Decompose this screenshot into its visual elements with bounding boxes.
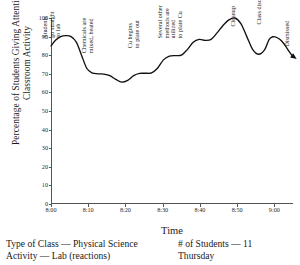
curve-annotation: Cleanup <box>231 6 238 27</box>
x-tick-label: 8:40 <box>194 207 205 213</box>
caption-left-column: Type of Class — Physical Science Activit… <box>6 238 178 262</box>
curve-annotation: Chemicals are mixed, heated <box>81 18 94 53</box>
curve-annotation: Class discussion <box>257 0 264 25</box>
caption-day: Thursday <box>178 250 294 262</box>
y-tick-label: 70 <box>42 71 48 77</box>
plot-area: 0102030405060708090100 8:008:108:208:308… <box>51 18 293 204</box>
x-tick-label: 8:10 <box>83 207 94 213</box>
x-tick-label: 8:00 <box>45 207 56 213</box>
x-tick-label: 8:30 <box>157 207 168 213</box>
y-tick-label: 60 <box>42 89 48 95</box>
y-tick-label: 40 <box>42 126 48 132</box>
y-tick-label: 80 <box>42 52 48 58</box>
caption-class-type: Type of Class — Physical Science <box>6 238 178 250</box>
curve-annotation: Cu begins to plate out <box>127 20 140 48</box>
caption-student-count: # of Students — 11 <box>178 238 294 250</box>
x-tick-label: 8:20 <box>120 207 131 213</box>
y-tick-label: 50 <box>42 108 48 114</box>
caption-activity: Activity — Lab (reactions) <box>6 250 178 262</box>
curve-annotation: Dismissed <box>285 21 292 47</box>
figure-caption: Type of Class — Physical Science Activit… <box>6 238 294 262</box>
y-tick-label: 20 <box>42 164 48 170</box>
attention-over-time-figure: Percentage of Students Giving Attention … <box>0 0 300 265</box>
x-tick-label: 9:00 <box>269 207 280 213</box>
caption-right-column: # of Students — 11 Thursday <box>178 238 294 262</box>
curve-annotation: Several other methods are utilized to pl… <box>157 6 183 39</box>
y-tick-label: 30 <box>42 145 48 151</box>
y-tick-label: 10 <box>42 182 48 188</box>
x-axis-title: Time <box>51 225 293 236</box>
curve-annotation: Students go straight to lab <box>42 11 62 37</box>
y-axis-title: Percentage of Students Giving Attention … <box>11 0 33 158</box>
x-tick-label: 8:50 <box>232 207 243 213</box>
